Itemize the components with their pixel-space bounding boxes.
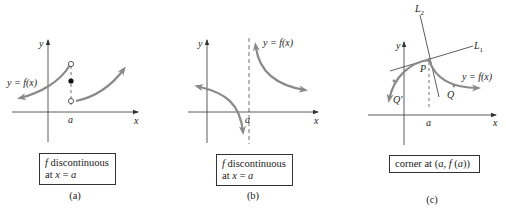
panel-a-caption: (a) <box>62 190 88 201</box>
box-text: discontinuous <box>225 158 286 169</box>
box-text: corner at ( <box>395 158 438 169</box>
curve-left-branch <box>200 87 243 132</box>
x-axis-label: x <box>492 117 498 128</box>
filled-dot <box>68 78 73 83</box>
open-circle-bottom <box>68 98 73 103</box>
box-text: = <box>237 170 248 181</box>
box-text: = <box>60 169 71 180</box>
point-Q-prime <box>393 80 396 83</box>
panel-b: y x a y = f(x) <box>188 37 319 144</box>
panel-a-description-box: f discontinuous at x = a <box>39 153 116 185</box>
panel-a: y x a y = f(x) <box>6 38 139 142</box>
tangent-line-L2 <box>420 15 439 97</box>
x-axis-label: x <box>313 115 319 126</box>
box-text: at <box>222 170 232 181</box>
panel-c-description-box: corner at (a, f (a)) <box>389 155 480 173</box>
box-text: )) <box>463 158 470 169</box>
line-label-L2: L2 <box>414 3 425 17</box>
panel-c-caption: (c) <box>419 194 445 205</box>
line-label-L1: L1 <box>473 40 484 54</box>
curve-right <box>76 69 124 101</box>
panel-b-description-box: f discontinuous at x = a <box>216 154 293 186</box>
tick-label-a: a <box>426 117 431 128</box>
point-label-Q: Q <box>447 89 455 100</box>
y-axis-label: y <box>197 38 203 49</box>
point-label-P: P <box>419 63 426 74</box>
a-symbol: a <box>71 169 76 180</box>
point-Q <box>453 85 456 88</box>
box-text: at <box>45 169 55 180</box>
panel-b-caption: (b) <box>240 190 266 201</box>
corner-point-P <box>427 58 431 62</box>
tick-label-a: a <box>68 114 73 125</box>
box-text: discontinuous <box>48 157 109 168</box>
curve-right-branch <box>256 48 305 90</box>
open-circle-top <box>68 61 73 66</box>
point-label-Q-prime: Q′ <box>393 94 403 105</box>
y-axis-label: y <box>395 40 401 51</box>
x-axis-label: x <box>133 115 139 126</box>
panel-c: y x a L2 L1 P Q Q′ y = f(x) <box>368 3 498 145</box>
a-symbol: a <box>248 170 253 181</box>
curve-label: y = f(x) <box>262 37 294 49</box>
curve-label: y = f(x) <box>6 77 38 89</box>
curve-label: y = f(x) <box>461 71 493 83</box>
y-axis-label: y <box>38 38 44 49</box>
